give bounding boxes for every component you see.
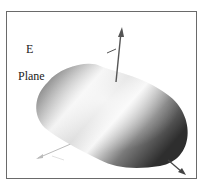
z-axis-arrowhead-icon xyxy=(118,27,124,37)
z-axis-tick xyxy=(107,49,116,53)
y-axis-label-mark xyxy=(52,156,64,160)
radiation-pattern-diagram xyxy=(0,0,203,184)
surface-highlight xyxy=(36,64,187,168)
y-axis-arrowhead-icon xyxy=(36,154,43,159)
